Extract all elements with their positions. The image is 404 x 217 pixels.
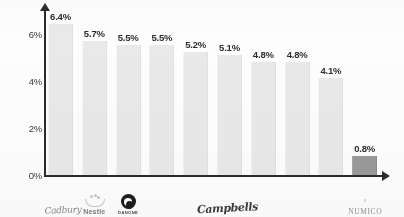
bar-slot: 5.2%: [183, 10, 208, 175]
bar-value-label: 4.1%: [311, 65, 350, 76]
category-logos: CadburyNestleDANONECampbells°NUMICO: [46, 178, 384, 217]
bar-value-label: 0.8%: [345, 143, 384, 154]
bar[interactable]: [352, 156, 377, 175]
danone-circle-icon: [121, 194, 136, 209]
logo-cadbury: Cadbury: [40, 205, 86, 215]
campbells-wordmark-icon: Campbells: [197, 201, 250, 217]
bar-slot: 4.8%: [285, 10, 310, 175]
plot-area: 6.4%5.7%5.5%5.5%5.2%5.1%4.8%4.8%4.1%0.8%: [46, 10, 384, 175]
bar-slot: 5.7%: [82, 10, 107, 175]
bar[interactable]: [183, 52, 208, 175]
nestle-wordmark: Nestle: [83, 208, 105, 215]
y-axis-tick-label: 2%: [14, 122, 42, 133]
numico-logo-icon: °NUMICO: [342, 199, 388, 216]
bar-slot: 5.5%: [149, 10, 174, 175]
bar[interactable]: [82, 41, 107, 175]
bar-slot: 5.1%: [217, 10, 242, 175]
bar[interactable]: [251, 62, 276, 175]
y-axis-tick-label: 6%: [14, 28, 42, 39]
y-axis-ticks: 6%4%2%0%: [8, 0, 42, 217]
bar-slot: 6.4%: [48, 10, 73, 175]
x-axis-line: [44, 175, 384, 177]
bar-value-label: 6.4%: [41, 11, 80, 22]
bar[interactable]: [318, 78, 343, 175]
logo-nestle: Nestle: [82, 194, 107, 215]
y-axis-tick-label: 4%: [14, 75, 42, 86]
numico-wordmark: NUMICO: [348, 208, 382, 216]
bar[interactable]: [48, 24, 73, 175]
bar-slot: 4.8%: [251, 10, 276, 175]
bar[interactable]: [149, 45, 174, 175]
numico-mark-icon: °: [364, 199, 367, 206]
bar-chart: 6%4%2%0% 6.4%5.7%5.5%5.5%5.2%5.1%4.8%4.8…: [0, 0, 404, 217]
bar[interactable]: [217, 55, 242, 175]
bar-slot: 5.5%: [116, 10, 141, 175]
y-axis-tick-label: 0%: [14, 170, 42, 181]
bar-value-label: 4.8%: [278, 49, 317, 60]
nestle-nest-icon: [83, 194, 105, 207]
nestle-logo-icon: Nestle: [82, 194, 107, 215]
logo-numico: °NUMICO: [342, 199, 388, 216]
bar-slot: 4.1%: [318, 10, 343, 175]
cadbury-wordmark-icon: Cadbury: [40, 204, 86, 216]
bar[interactable]: [116, 45, 141, 175]
danone-wordmark: DANONE: [118, 211, 138, 215]
logo-danone: DANONE: [116, 194, 141, 215]
logo-campbells: Campbells: [197, 202, 249, 215]
bar[interactable]: [285, 62, 310, 175]
bar-slot: 0.8%: [352, 10, 377, 175]
danone-logo-icon: DANONE: [116, 194, 141, 215]
